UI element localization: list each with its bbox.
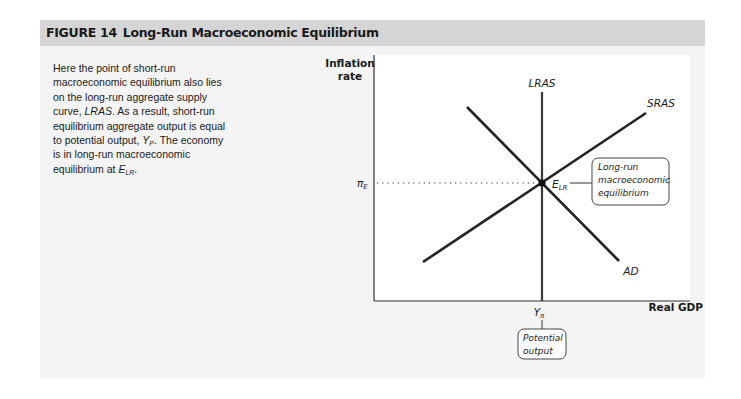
- y-tick-pi-e: πE: [357, 177, 368, 191]
- x-tick-sub: π: [540, 312, 545, 320]
- chart: Inflation rate Real GDP πE LRAS AD SRAS …: [0, 0, 741, 399]
- potential-callout-line1: Potential: [523, 333, 563, 343]
- equilibrium-callout-line3: equilibrium: [598, 188, 649, 198]
- equilibrium-label-sub: LR: [559, 184, 568, 192]
- x-axis-label: Real GDP: [648, 301, 703, 313]
- equilibrium-callout-line2: macroeconomic: [598, 175, 670, 185]
- lras-label: LRAS: [529, 77, 556, 89]
- x-tick-y-pi: Yπ: [534, 306, 545, 320]
- equilibrium-point: [538, 179, 545, 186]
- y-axis-label-line2: rate: [338, 70, 362, 82]
- equilibrium-callout-line1: Long-run: [598, 162, 639, 172]
- y-tick-sub: E: [363, 183, 368, 191]
- sras-label: SRAS: [647, 97, 675, 109]
- y-axis-label-line1: Inflation: [325, 57, 375, 69]
- ad-label: AD: [622, 265, 638, 277]
- potential-callout-line2: output: [523, 346, 553, 356]
